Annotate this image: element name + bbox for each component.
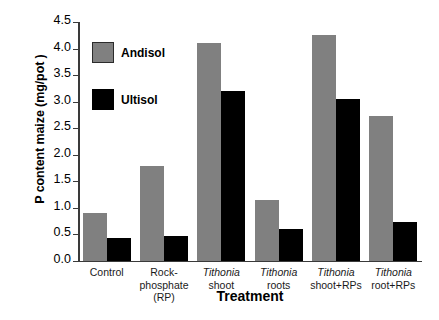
y-axis-tick-label: 4.5 (54, 13, 71, 27)
x-axis-line (78, 261, 422, 263)
bar-andisol (197, 43, 221, 260)
legend-label: Andisol (121, 46, 165, 60)
black-square-swatch (92, 89, 114, 110)
y-axis-tick-label: 2.0 (54, 146, 71, 160)
y-axis-tick-label: 0.0 (54, 252, 71, 266)
y-axis-tick-label: 1.5 (54, 172, 71, 186)
bar-ultisol (221, 91, 245, 260)
bar-andisol (140, 166, 164, 261)
y-axis-tick-mark (73, 234, 78, 235)
y-axis-tick-mark (73, 102, 78, 103)
bar-ultisol (107, 238, 131, 260)
bar-ultisol (279, 229, 303, 260)
y-axis-tick-label: 1.0 (54, 199, 71, 213)
y-axis-tick-label: 4.0 (54, 40, 71, 54)
bar-group (255, 22, 303, 261)
legend-label: Ultisol (121, 93, 158, 107)
y-axis-tick-mark (73, 22, 78, 23)
category-label-line: Tithonia (250, 266, 307, 279)
y-axis-tick-label: 3.0 (54, 93, 71, 107)
y-axis-tick-label: 2.5 (54, 119, 71, 133)
bar-group (312, 22, 360, 261)
y-axis-tick-mark (73, 181, 78, 182)
y-axis-line (78, 22, 80, 262)
bar-ultisol (393, 222, 417, 260)
category-label-line: Tithonia (307, 266, 364, 279)
bar-andisol (83, 213, 107, 261)
y-axis-tick-mark (73, 128, 78, 129)
gray-square-swatch (92, 42, 114, 63)
bar-ultisol (336, 99, 360, 260)
bar-group (369, 22, 417, 261)
bar-group (197, 22, 245, 261)
y-axis-tick-mark (73, 75, 78, 76)
bar-andisol (312, 35, 336, 261)
x-axis-category-label: Control (78, 266, 135, 279)
category-label-line: Control (78, 266, 135, 279)
category-label-line: Tithonia (365, 266, 422, 279)
y-axis-tick-mark (73, 49, 78, 50)
y-axis-tick-mark (73, 155, 78, 156)
bar-ultisol (164, 236, 188, 261)
y-axis-tick-label: 3.5 (54, 66, 71, 80)
bar-andisol (255, 200, 279, 261)
legend-item: Andisol (92, 42, 165, 63)
bar-chart-figure: P content maize (mg/pot ) 0.00.51.01.52.… (0, 0, 439, 320)
y-axis-title: P content maize (mg/pot ) (33, 9, 47, 249)
y-axis-tick-mark (73, 261, 78, 262)
y-axis-tick-mark (73, 208, 78, 209)
legend-item: Ultisol (92, 89, 158, 110)
x-axis-title: Treatment (78, 288, 422, 304)
category-label-line: Rock- (135, 266, 192, 279)
category-label-line: Tithonia (193, 266, 250, 279)
bar-andisol (369, 116, 393, 260)
y-axis-tick-label: 0.5 (54, 225, 71, 239)
